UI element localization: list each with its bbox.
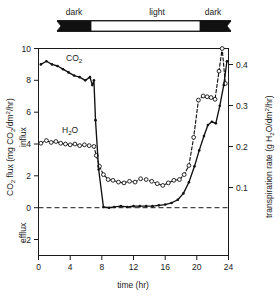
- data-point: [62, 68, 65, 71]
- data-point: [201, 94, 205, 98]
- xtick-label-16: 16: [160, 262, 170, 272]
- data-point: [117, 180, 121, 184]
- data-point: [102, 206, 105, 209]
- ytick-right-label-02: 0.2: [236, 142, 248, 152]
- data-point: [150, 179, 154, 183]
- data-point: [91, 84, 94, 87]
- xtick-label-12: 12: [129, 262, 139, 272]
- ytick-label-0: 0: [26, 203, 31, 213]
- svg-text:transpiration rate (g H2O/dm2/: transpiration rate (g H2O/dm2/hr): [263, 95, 275, 218]
- data-point: [84, 79, 87, 82]
- phase-bar-dark-right-block: [200, 21, 225, 31]
- ytick-right-label-01: 0.1: [236, 183, 248, 193]
- data-point: [102, 173, 106, 177]
- data-point: [215, 122, 218, 125]
- data-point: [220, 47, 224, 51]
- h2o-marker-group: [39, 47, 227, 188]
- ytick-label-6: 6: [26, 107, 31, 117]
- plot-frame: [39, 49, 229, 256]
- phase-bar-dark-left-segment: [57, 21, 91, 31]
- data-point: [151, 205, 154, 208]
- data-point: [213, 97, 217, 101]
- data-point: [197, 98, 201, 102]
- data-point: [45, 60, 48, 63]
- right-y-axis-title: transpiration rate (g H2O/dm2/hr): [263, 95, 275, 218]
- data-point: [145, 205, 148, 208]
- data-point: [78, 76, 81, 79]
- data-point: [182, 173, 186, 177]
- data-point: [68, 143, 72, 147]
- data-point: [209, 96, 213, 100]
- data-point: [132, 205, 135, 208]
- data-point: [56, 65, 59, 68]
- data-point: [170, 202, 173, 205]
- data-point: [111, 178, 115, 182]
- ytick-right-label-04: 0.4: [236, 60, 248, 70]
- data-point: [93, 79, 96, 82]
- data-point: [73, 142, 77, 146]
- data-point: [83, 143, 87, 147]
- ylabel-part-suffix-b: /hr): [5, 98, 15, 111]
- left-y-axis-title: CO2 flux (mg CO2/dm2/hr): [4, 98, 16, 196]
- phase-label-dark-right: dark: [205, 7, 222, 17]
- data-point: [188, 181, 191, 184]
- data-point: [193, 165, 196, 168]
- svg-text:influx: influx: [18, 126, 28, 147]
- data-point: [45, 139, 49, 143]
- xtick-label-4: 4: [68, 262, 73, 272]
- x-axis: 0 4 8 12 16 20 24 time (hr): [36, 256, 233, 291]
- data-point: [67, 71, 70, 74]
- ylabel-part-prefix: CO: [5, 183, 15, 196]
- data-point: [94, 119, 97, 122]
- data-point: [192, 135, 196, 139]
- data-point: [144, 178, 148, 182]
- right-y-axis: 0.4 0.3 0.2 0.1: [229, 60, 249, 193]
- ylabel-right-prefix: transpiration rate (g H: [264, 136, 274, 218]
- data-point: [126, 206, 129, 209]
- data-point: [182, 192, 185, 195]
- data-point: [139, 177, 143, 181]
- ylabel-part-suffix-a: /dm: [5, 114, 15, 128]
- data-point: [166, 181, 170, 185]
- data-point: [49, 141, 53, 145]
- data-point: [92, 145, 96, 149]
- data-point: [51, 63, 54, 66]
- data-point: [59, 141, 63, 145]
- data-point: [161, 184, 165, 188]
- direction-label-efflux: efflux: [18, 222, 28, 243]
- xtick-label-20: 20: [192, 262, 202, 272]
- data-point: [203, 135, 206, 138]
- ytick-label-10: 10: [22, 44, 32, 54]
- data-point: [106, 178, 110, 182]
- data-point: [73, 74, 76, 77]
- direction-label-influx: influx: [18, 126, 28, 147]
- data-point: [205, 95, 209, 99]
- data-point: [39, 141, 43, 145]
- xtick-label-24: 24: [224, 262, 234, 272]
- series-annotation-co2: CO2: [66, 53, 83, 64]
- data-point: [207, 124, 210, 127]
- transpiration-co2-flux-figure: dark light dark 10 8 6: [0, 0, 280, 299]
- chart-svg: dark light dark 10 8 6: [0, 0, 280, 299]
- phase-bar-dark-right-segment: [225, 21, 231, 31]
- data-point: [222, 84, 225, 87]
- data-point: [155, 182, 159, 186]
- phase-label-dark-left: dark: [66, 7, 83, 17]
- data-point: [177, 198, 180, 201]
- series-annotation-h2o: H2O: [62, 125, 79, 136]
- data-point: [187, 164, 191, 168]
- xtick-label-8: 8: [99, 262, 104, 272]
- data-point: [120, 205, 123, 208]
- data-point: [113, 206, 116, 209]
- ylabel-right-mid: O/dm: [264, 112, 274, 133]
- data-point: [164, 203, 167, 206]
- data-point: [87, 144, 91, 148]
- data-point: [108, 206, 111, 209]
- data-point: [78, 144, 82, 148]
- data-point: [40, 63, 43, 66]
- data-point: [97, 168, 100, 171]
- ytick-right-label-03: 0.3: [236, 101, 248, 111]
- data-point: [178, 178, 182, 182]
- data-point: [89, 76, 92, 79]
- x-axis-title: time (hr): [117, 280, 149, 290]
